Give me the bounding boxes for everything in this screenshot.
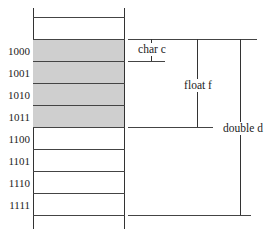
- address-label-1000: 1000: [0, 45, 30, 57]
- memory-cell-1011: [33, 105, 124, 127]
- memory-column-right-border: [124, 8, 125, 229]
- row-divider: [33, 105, 125, 106]
- memory-cell-empty-top: [33, 17, 124, 39]
- row-divider: [33, 83, 125, 84]
- bracket-double-d-label: double d: [221, 122, 265, 135]
- memory-cell-1001: [33, 61, 124, 83]
- memory-cell-1110: [33, 171, 124, 193]
- row-divider: [33, 171, 125, 172]
- address-label-1101: 1101: [0, 155, 30, 167]
- memory-cell-1000: [33, 39, 124, 61]
- bracket-top-line: [128, 39, 257, 40]
- address-label-1010: 1010: [0, 89, 30, 101]
- address-label-1011: 1011: [0, 111, 30, 123]
- row-divider: [33, 61, 125, 62]
- memory-cell-1111: [33, 193, 124, 215]
- bracket-double-d-bottom: [128, 215, 251, 216]
- row-divider: [33, 149, 125, 150]
- memory-cell-1010: [33, 83, 124, 105]
- row-divider: [33, 17, 125, 18]
- memory-cell-1100: [33, 127, 124, 149]
- memory-cell-1101: [33, 149, 124, 171]
- bracket-char-c-bottom: [128, 61, 165, 62]
- row-divider: [33, 215, 125, 216]
- address-label-1100: 1100: [0, 133, 30, 145]
- address-label-1110: 1110: [0, 177, 30, 189]
- address-label-1111: 1111: [0, 199, 30, 211]
- row-divider: [33, 193, 125, 194]
- bracket-float-f-bottom: [128, 127, 213, 128]
- row-divider: [33, 127, 125, 128]
- address-label-1001: 1001: [0, 67, 30, 79]
- bracket-char-c-label: char c: [134, 43, 170, 56]
- bracket-float-f-label: float f: [181, 79, 215, 92]
- row-divider: [33, 39, 125, 40]
